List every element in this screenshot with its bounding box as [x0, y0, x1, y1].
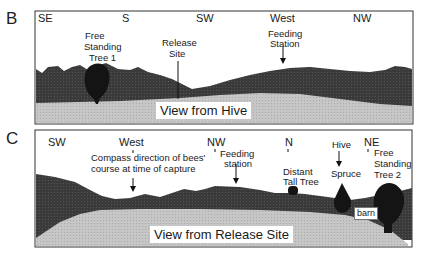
release-site-label-l2: Site: [169, 48, 185, 59]
dir-s: S: [122, 12, 129, 24]
tree-2-label-l1: Free: [374, 147, 394, 158]
view-from-release-site-label: View from Release Site: [150, 226, 293, 243]
dir-sw-c: SW: [48, 136, 66, 148]
distant-tall-tree-shape: [288, 186, 298, 195]
dir-nw-c: NW: [207, 136, 226, 148]
dir-west-c: West: [119, 136, 144, 148]
compass-label-l1: Compass direction of bees': [91, 152, 205, 163]
dir-west: West: [270, 12, 295, 24]
feeding-station-c-l2: station: [224, 158, 252, 169]
tree-2-label-l3: Tree 2: [374, 169, 401, 180]
tree-1-label-l1: Free: [85, 30, 105, 41]
barn-label: barn: [354, 207, 378, 220]
distant-tall-tree-l2: Tall Tree: [283, 176, 319, 187]
view-from-hive-label: View from Hive: [156, 102, 251, 119]
hive-label: Hive: [332, 139, 351, 150]
spruce-label: Spruce: [331, 168, 361, 179]
tree-1-label-l3: Tree 1: [89, 52, 116, 63]
dir-nw: NW: [353, 12, 372, 24]
dir-sw: SW: [196, 12, 214, 24]
compass-label-l2: course at time of capture: [91, 163, 196, 174]
feeding-station-label-l2: Station: [270, 38, 300, 49]
release-site-label-l1: Release: [162, 37, 197, 48]
tree-2-label-l2: Standing: [374, 158, 412, 169]
tree-1-label-l2: Standing: [84, 41, 122, 52]
dir-se: SE: [38, 12, 53, 24]
dir-n-c: N: [285, 136, 293, 148]
